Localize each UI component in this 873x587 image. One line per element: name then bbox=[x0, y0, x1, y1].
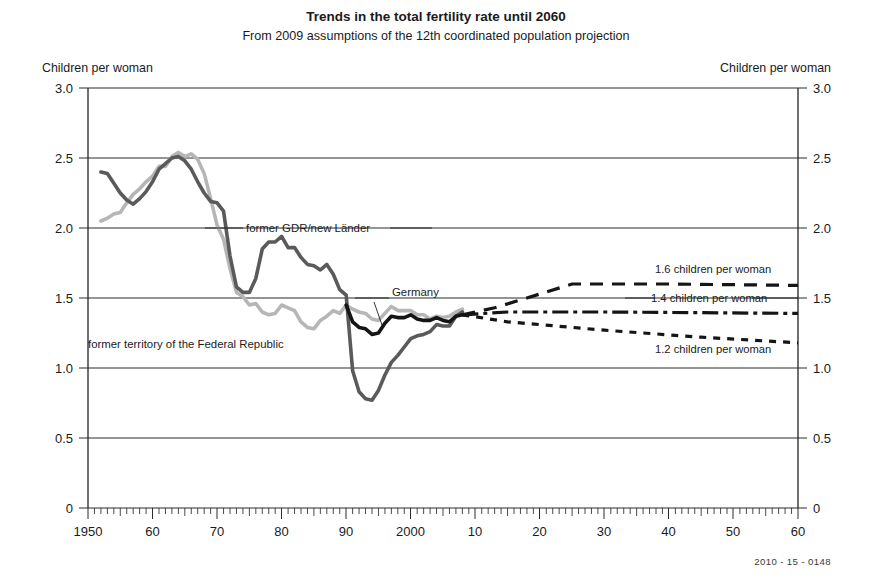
ytick-left-3-0: 3.0 bbox=[55, 81, 73, 96]
xtick-2030: 30 bbox=[597, 524, 611, 539]
ytick-left-0-5: 0.5 bbox=[55, 431, 73, 446]
xtick-1950: 1950 bbox=[74, 524, 103, 539]
ytick-right-0: 0 bbox=[813, 501, 820, 516]
ytick-left-1-5: 1.5 bbox=[55, 291, 73, 306]
annotation-former-gdr: former GDR/new Länder bbox=[246, 222, 370, 234]
xtick-1990: 90 bbox=[339, 524, 353, 539]
annotation-scenario-1-4: 1.4 children per woman bbox=[651, 292, 767, 304]
xtick-2020: 20 bbox=[532, 524, 546, 539]
fertility-rate-chart: Trends in the total fertility rate until… bbox=[0, 0, 873, 587]
ytick-left-0: 0 bbox=[66, 501, 73, 516]
ytick-right-3-0: 3.0 bbox=[813, 81, 831, 96]
page-subtitle: From 2009 assumptions of the 12th coordi… bbox=[242, 29, 629, 43]
xtick-1960: 60 bbox=[145, 524, 159, 539]
footer-code: 2010 - 15 - 0148 bbox=[754, 556, 831, 567]
ytick-right-2-5: 2.5 bbox=[813, 151, 831, 166]
xtick-1970: 70 bbox=[210, 524, 224, 539]
ytick-right-1-5: 1.5 bbox=[813, 291, 831, 306]
xtick-2010: 10 bbox=[468, 524, 482, 539]
annotation-former-federal-republic: former territory of the Federal Republic bbox=[88, 338, 284, 350]
xtick-2060: 60 bbox=[791, 524, 805, 539]
ytick-right-1-0: 1.0 bbox=[813, 361, 831, 376]
left-axis-label: Children per woman bbox=[42, 61, 153, 75]
xtick-2050: 50 bbox=[726, 524, 740, 539]
annotation-scenario-1-2: 1.2 children per woman bbox=[655, 343, 771, 355]
ytick-right-0-5: 0.5 bbox=[813, 431, 831, 446]
xtick-2000: 2000 bbox=[396, 524, 425, 539]
right-axis-label: Children per woman bbox=[720, 61, 831, 75]
ytick-left-2-0: 2.0 bbox=[55, 221, 73, 236]
page-title: Trends in the total fertility rate until… bbox=[306, 9, 566, 24]
ytick-right-2-0: 2.0 bbox=[813, 221, 831, 236]
xtick-1980: 80 bbox=[274, 524, 288, 539]
ytick-left-1-0: 1.0 bbox=[55, 361, 73, 376]
xtick-2040: 40 bbox=[661, 524, 675, 539]
annotation-scenario-1-6: 1.6 children per woman bbox=[655, 263, 771, 275]
ytick-left-2-5: 2.5 bbox=[55, 151, 73, 166]
annotation-germany: Germany bbox=[392, 286, 439, 298]
